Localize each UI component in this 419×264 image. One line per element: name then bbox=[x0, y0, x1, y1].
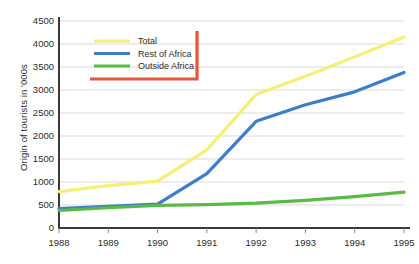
x-tick-label: 1995 bbox=[384, 238, 419, 248]
x-tick-label: 1989 bbox=[88, 238, 128, 248]
x-tick-label: 1991 bbox=[187, 238, 227, 248]
x-tick-label: 1988 bbox=[39, 238, 79, 248]
x-tick-label: 1994 bbox=[335, 238, 375, 248]
x-tick-label: 1992 bbox=[236, 238, 276, 248]
x-tick-label: 1990 bbox=[138, 238, 178, 248]
x-tick-label: 1993 bbox=[285, 238, 325, 248]
